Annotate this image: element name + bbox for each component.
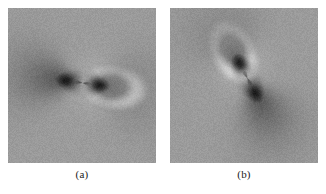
panel-a — [8, 8, 156, 163]
panel-b-caption: (b) — [170, 168, 318, 181]
panel-a-caption: (a) — [8, 168, 156, 181]
field-map-a — [8, 8, 156, 163]
figure-root: (a) (b) — [0, 0, 326, 194]
field-map-b-canvas — [170, 8, 318, 163]
field-map-a-canvas — [8, 8, 156, 163]
panel-b — [170, 8, 318, 163]
field-map-b — [170, 8, 318, 163]
